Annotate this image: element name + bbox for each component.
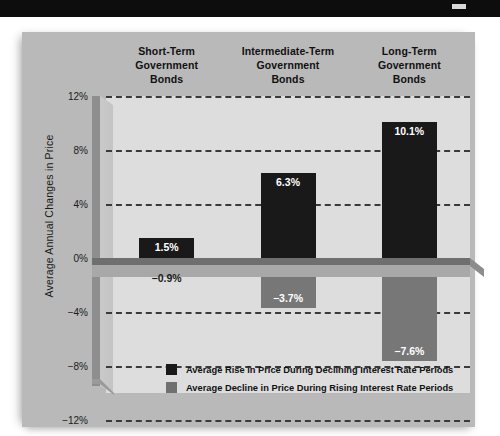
legend-swatch-icon: [166, 382, 177, 393]
category-heading: Intermediate-TermGovernmentBonds: [227, 44, 348, 96]
category-headings: Short-TermGovernmentBondsIntermediate-Te…: [106, 44, 470, 96]
category-heading-line: Government: [106, 58, 227, 72]
bar-value-label: −3.7%: [261, 292, 316, 304]
legend-swatch-icon: [166, 364, 177, 375]
category-heading-line: Intermediate-Term: [227, 44, 348, 58]
y-tick-label: −8%: [48, 361, 88, 372]
page-root: Short-TermGovernmentBondsIntermediate-Te…: [0, 0, 500, 436]
y-tick-label: 4%: [48, 199, 88, 210]
bar-value-label: 6.3%: [261, 176, 316, 188]
bar-positive: 1.5%: [139, 238, 194, 258]
y-tick-label: −12%: [48, 415, 88, 426]
axis-wall-side: [100, 96, 113, 393]
category-heading: Short-TermGovernmentBonds: [106, 44, 227, 96]
top-banner: [0, 0, 500, 17]
chart-card: Short-TermGovernmentBondsIntermediate-Te…: [22, 32, 475, 427]
category-heading-line: Short-Term: [106, 44, 227, 58]
bar-value-label: −7.6%: [382, 345, 437, 357]
bar-positive: 10.1%: [382, 122, 437, 258]
category-heading-line: Bonds: [227, 72, 348, 86]
chart-legend: Average Rise in Price During Declining I…: [166, 362, 466, 398]
axis-wall-front: [92, 96, 100, 386]
bar-value-label: 1.5%: [139, 241, 194, 253]
zero-line-side-face: [470, 258, 484, 277]
category-heading-line: Long-Term: [349, 44, 470, 58]
bar-positive: 6.3%: [261, 173, 316, 258]
bar-value-label: −0.9%: [139, 272, 194, 284]
legend-label: Average Decline in Price During Rising I…: [186, 383, 453, 393]
gridline: [106, 420, 470, 422]
category-heading: Long-TermGovernmentBonds: [349, 44, 470, 96]
legend-item: Average Decline in Price During Rising I…: [166, 380, 466, 395]
category-heading-line: Bonds: [349, 72, 470, 86]
y-tick-label: 0%: [48, 253, 88, 264]
y-tick-label: −4%: [48, 307, 88, 318]
y-axis-ticks: 12%8%4%0%−4%−8%−12%: [46, 96, 88, 393]
category-heading-line: Government: [349, 58, 470, 72]
bar-value-label: 10.1%: [382, 125, 437, 137]
category-heading-line: Government: [227, 58, 348, 72]
y-tick-label: 8%: [48, 145, 88, 156]
banner-mark-icon: [452, 4, 466, 9]
legend-label: Average Rise in Price During Declining I…: [186, 365, 453, 375]
gridline: [106, 96, 470, 98]
legend-item: Average Rise in Price During Declining I…: [166, 362, 466, 377]
y-tick-label: 12%: [48, 91, 88, 102]
zero-line-top-face: [92, 258, 470, 265]
category-heading-line: Bonds: [106, 72, 227, 86]
